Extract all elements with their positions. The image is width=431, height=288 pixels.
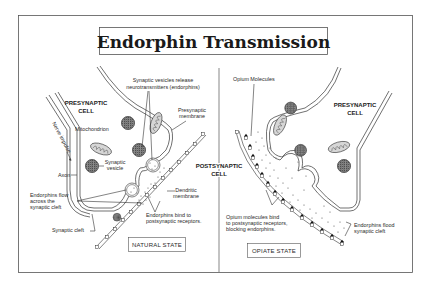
left-presynaptic-label-2: CELL — [78, 108, 94, 114]
label-mitochondrion: Mitochondrion — [75, 126, 109, 132]
label-endorphins-flood-2: synaptic cleft — [354, 228, 386, 234]
postsynaptic-label-2: CELL — [211, 171, 227, 177]
label-endorphins-bind-2: postsynaptic receptors. — [146, 218, 201, 224]
endorphin-transmission-diagram: Endorphin Transmission — [0, 0, 431, 288]
label-dendritic-membrane-2: membrane — [173, 193, 199, 199]
postsynaptic-label-1: POSTSYNAPTIC — [196, 163, 243, 169]
right-presynaptic-label-1: PRESYNAPTIC — [334, 102, 377, 108]
label-presynaptic-membrane-2: membrane — [179, 113, 205, 119]
diagram-title: Endorphin Transmission — [97, 32, 331, 52]
natural-state-label: NATURAL STATE — [132, 242, 182, 248]
label-synaptic-vesicle-2: vesicle — [107, 165, 123, 171]
label-synaptic-cleft: Synaptic cleft — [52, 227, 85, 233]
label-opium-bind-3: blocking endorphins. — [226, 226, 275, 232]
opiate-state-label: OPIATE STATE — [252, 248, 296, 254]
label-endorphins-flow-3: synaptic cleft — [30, 204, 62, 210]
label-vesicles-release-2: neurotransmitters (endorphins) — [126, 84, 200, 90]
label-vesicles-release-1: Synaptic vesicles release — [133, 77, 194, 83]
right-presynaptic-label-2: CELL — [347, 110, 363, 116]
left-presynaptic-label-1: PRESYNAPTIC — [65, 100, 108, 106]
label-opium-molecules: Opium Molecules — [233, 76, 275, 82]
label-axon: Axon — [58, 172, 70, 178]
